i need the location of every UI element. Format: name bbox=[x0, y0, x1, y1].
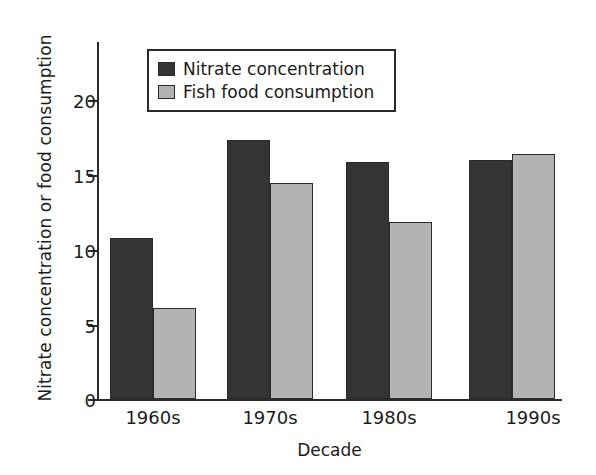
legend-swatch-fishfood bbox=[158, 85, 175, 99]
y-tick-label-10: 10 bbox=[56, 241, 96, 262]
bar-fishfood-1990s bbox=[512, 154, 555, 399]
chart-legend: Nitrate concentration Fish food consumpt… bbox=[147, 49, 396, 112]
legend-item-nitrate: Nitrate concentration bbox=[158, 57, 384, 80]
y-tick-label-20: 20 bbox=[56, 91, 96, 112]
y-tick-label-5: 5 bbox=[56, 316, 96, 337]
x-tick-label-1990s: 1990s bbox=[505, 407, 560, 428]
legend-swatch-nitrate bbox=[158, 62, 175, 76]
x-tick-label-1960s: 1960s bbox=[125, 407, 180, 428]
x-tick-label-1970s: 1970s bbox=[242, 407, 297, 428]
legend-label-fishfood: Fish food consumption bbox=[183, 82, 374, 102]
bar-fishfood-1960s bbox=[153, 308, 196, 399]
chart-figure: Nitrate concentration or food consumptio… bbox=[0, 0, 596, 475]
legend-item-fishfood: Fish food consumption bbox=[158, 80, 384, 103]
bar-nitrate-1970s bbox=[227, 140, 270, 399]
bar-fishfood-1970s bbox=[270, 183, 313, 399]
legend-label-nitrate: Nitrate concentration bbox=[183, 59, 365, 79]
y-axis-line bbox=[97, 42, 99, 400]
bar-nitrate-1960s bbox=[110, 238, 153, 399]
bar-nitrate-1980s bbox=[346, 162, 389, 399]
y-tick-label-15: 15 bbox=[56, 166, 96, 187]
bar-fishfood-1980s bbox=[389, 222, 432, 399]
x-tick-label-1980s: 1980s bbox=[361, 407, 416, 428]
x-axis-title: Decade bbox=[97, 440, 562, 460]
y-axis-title: Nitrate concentration or food consumptio… bbox=[30, 18, 60, 418]
x-axis-line bbox=[97, 399, 562, 401]
bar-nitrate-1990s bbox=[469, 160, 512, 399]
y-tick-label-0: 0 bbox=[56, 390, 96, 411]
